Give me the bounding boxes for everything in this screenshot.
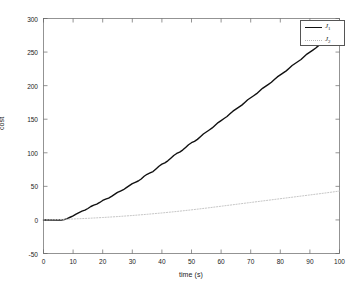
x-tick-label: 70 — [247, 258, 254, 265]
x-tick-label: 20 — [99, 258, 106, 265]
figure-canvas: -500501001502002503000102030405060708090… — [0, 0, 358, 296]
legend-line-sample-j1 — [305, 27, 322, 28]
x-tick-label: 60 — [217, 258, 224, 265]
x-tick-label: 40 — [158, 258, 165, 265]
legend-item-j2[interactable]: J2 — [301, 34, 344, 47]
x-tick-label: 50 — [188, 258, 195, 265]
x-tick-label: 30 — [129, 258, 136, 265]
x-tick-label: 0 — [42, 258, 46, 265]
y-tick-label: 200 — [10, 82, 38, 89]
x-tick-label: 80 — [277, 258, 284, 265]
y-tick-label: 100 — [10, 149, 38, 156]
x-tick-label: 100 — [334, 258, 345, 265]
legend-label-j2: J2 — [325, 35, 331, 44]
legend-line-sample-j2 — [305, 40, 322, 41]
y-tick-label: -50 — [10, 250, 38, 257]
y-tick-label: 50 — [10, 183, 38, 190]
x-axis-label: time (s) — [12, 271, 358, 278]
x-tick-label: 90 — [306, 258, 313, 265]
y-axis-label: cost — [0, 117, 5, 130]
y-tick-label: 150 — [10, 116, 38, 123]
chart-legend[interactable]: J1 J2 — [300, 20, 345, 46]
y-tick-label: 0 — [10, 216, 38, 223]
legend-label-j1: J1 — [325, 22, 331, 31]
legend-item-j1[interactable]: J1 — [301, 21, 344, 34]
y-tick-label: 300 — [10, 15, 38, 22]
x-tick-label: 10 — [69, 258, 76, 265]
y-tick-label: 250 — [10, 49, 38, 56]
